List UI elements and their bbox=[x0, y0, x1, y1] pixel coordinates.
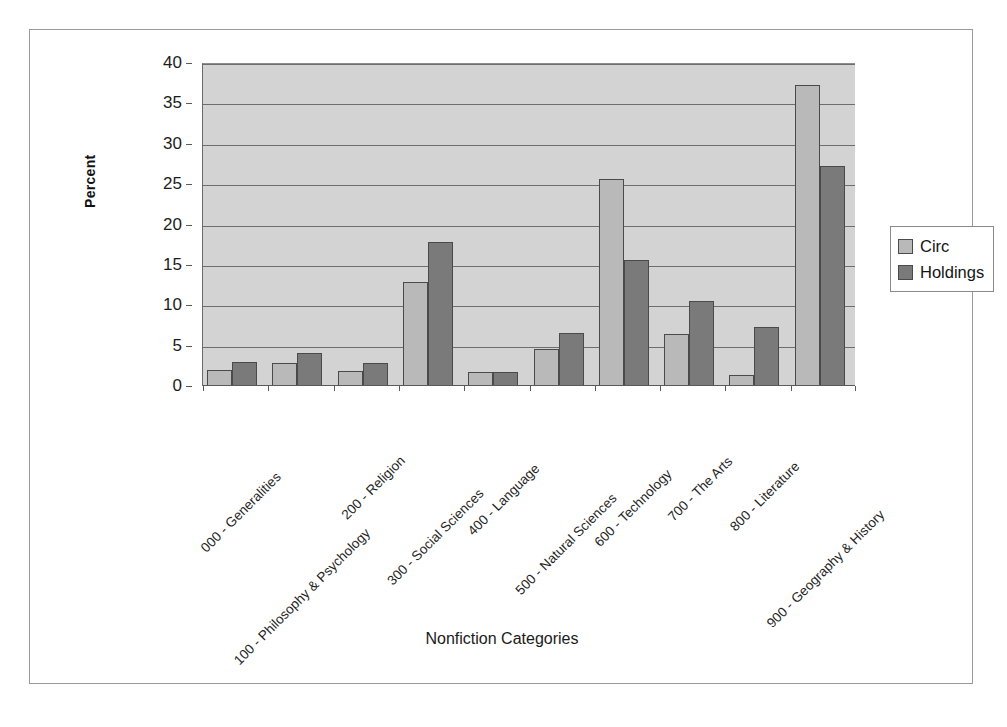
y-axis-title: Percent bbox=[82, 155, 98, 208]
plot-inner bbox=[203, 64, 855, 386]
y-tick-mark bbox=[186, 184, 192, 185]
bar-group bbox=[399, 64, 464, 386]
x-category-label: 000 - Generalities bbox=[198, 469, 284, 555]
x-axis-labels: 000 - Generalities100 - Philosophy & Psy… bbox=[202, 386, 855, 596]
y-tick-label: 40 bbox=[163, 53, 182, 73]
y-tick-mark bbox=[186, 63, 192, 64]
bar-group bbox=[725, 64, 790, 386]
bar-circ[interactable] bbox=[272, 363, 297, 386]
bar-holdings[interactable] bbox=[363, 363, 388, 386]
legend-label-circ: Circ bbox=[920, 237, 949, 256]
legend-swatch-circ-icon bbox=[898, 239, 913, 254]
bar-circ[interactable] bbox=[664, 334, 689, 386]
y-tick-mark bbox=[186, 386, 192, 387]
chart-legend: Circ Holdings bbox=[890, 226, 994, 292]
bar-group bbox=[334, 64, 399, 386]
plot-area bbox=[202, 63, 855, 386]
y-tick-mark bbox=[186, 265, 192, 266]
y-tick-label: 5 bbox=[173, 336, 182, 356]
bar-circ[interactable] bbox=[338, 371, 363, 386]
bar-circ[interactable] bbox=[403, 282, 428, 386]
bar-holdings[interactable] bbox=[624, 260, 649, 386]
bar-circ[interactable] bbox=[599, 179, 624, 386]
x-category-label: 800 - Literature bbox=[727, 459, 802, 534]
bar-group bbox=[464, 64, 529, 386]
x-axis-title: Nonfiction Categories bbox=[30, 630, 974, 648]
y-tick-mark bbox=[186, 144, 192, 145]
legend-swatch-holdings-icon bbox=[898, 265, 913, 280]
legend-label-holdings: Holdings bbox=[920, 263, 984, 282]
y-tick-label: 15 bbox=[163, 255, 182, 275]
bar-holdings[interactable] bbox=[689, 301, 714, 386]
bar-holdings[interactable] bbox=[428, 242, 453, 386]
bar-holdings[interactable] bbox=[559, 333, 584, 386]
x-category-label: 700 - The Arts bbox=[665, 454, 735, 524]
bar-group bbox=[595, 64, 660, 386]
bar-circ[interactable] bbox=[795, 85, 820, 386]
y-tick-label: 30 bbox=[163, 134, 182, 154]
bar-group bbox=[268, 64, 333, 386]
y-tick-mark bbox=[186, 225, 192, 226]
y-tick-label: 10 bbox=[163, 295, 182, 315]
x-category-label: 200 - Religion bbox=[339, 453, 409, 523]
y-tick-mark bbox=[186, 346, 192, 347]
y-tick-label: 35 bbox=[163, 93, 182, 113]
bar-group bbox=[660, 64, 725, 386]
bar-circ[interactable] bbox=[207, 370, 232, 386]
x-category-label: 900 - Geography & History bbox=[764, 507, 888, 631]
bar-group bbox=[530, 64, 595, 386]
bar-group bbox=[203, 64, 268, 386]
bar-holdings[interactable] bbox=[232, 362, 257, 386]
legend-item-circ: Circ bbox=[898, 237, 984, 256]
legend-item-holdings: Holdings bbox=[898, 263, 984, 282]
y-tick-label: 20 bbox=[163, 215, 182, 235]
bar-circ[interactable] bbox=[534, 349, 559, 386]
bar-circ[interactable] bbox=[468, 372, 493, 386]
bar-group bbox=[791, 64, 856, 386]
y-tick-label: 25 bbox=[163, 174, 182, 194]
bar-holdings[interactable] bbox=[297, 353, 322, 386]
x-category-label: 300 - Social Sciences bbox=[385, 486, 487, 588]
bar-holdings[interactable] bbox=[754, 327, 779, 386]
y-tick-mark bbox=[186, 103, 192, 104]
y-axis: 4035302520151050 bbox=[130, 63, 192, 386]
x-tick-mark bbox=[855, 386, 856, 391]
y-tick-label: 0 bbox=[173, 376, 182, 396]
y-tick-mark bbox=[186, 305, 192, 306]
bar-holdings[interactable] bbox=[493, 372, 518, 386]
bar-holdings[interactable] bbox=[820, 166, 845, 386]
chart-frame: Percent 4035302520151050 000 - Generalit… bbox=[29, 29, 973, 684]
